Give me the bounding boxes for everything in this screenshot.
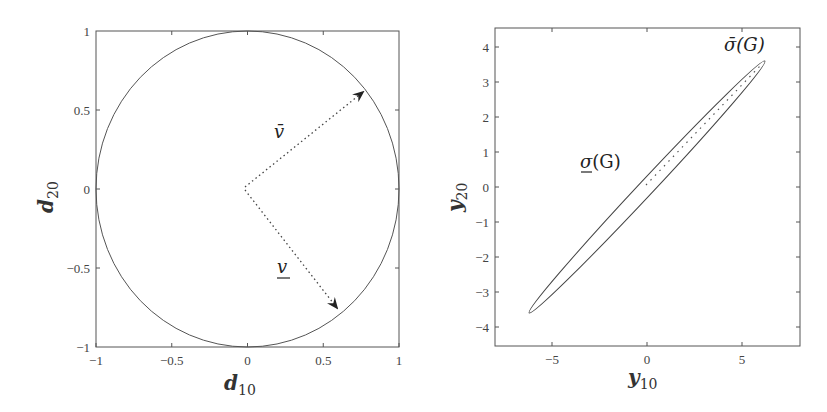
right-x-axis-label: y10 (627, 365, 657, 392)
right-ytick-label: −1 (475, 215, 489, 230)
right-ytick-label: −4 (475, 320, 489, 335)
right-ytick-label: 0 (483, 180, 490, 195)
vunder-label: v (277, 256, 287, 277)
left-plot-frame (96, 31, 399, 347)
sigma-max-label: σ̄(G) (724, 34, 765, 55)
left-ytick-label: −0.5 (66, 261, 90, 276)
right-plot: −5 0 5 4 3 2 1 0 −1 −2 −3 −4 y10 y20 σ̄(… (443, 28, 800, 392)
right-xtick-label: 5 (739, 352, 746, 367)
left-x-ticks (96, 31, 399, 347)
right-ytick-label: −3 (475, 285, 489, 300)
vbar-arrow (245, 92, 363, 187)
right-ytick-label: 1 (483, 145, 490, 160)
max-gain-direction (646, 66, 760, 185)
right-ytick-label: 4 (483, 40, 490, 55)
right-ytick-label: −2 (475, 250, 489, 265)
right-y-axis-label: y20 (443, 183, 470, 213)
left-y-ticks (96, 110, 399, 268)
left-xtick-label: 0 (244, 353, 251, 368)
figure: −1 −0.5 0 0.5 1 1 0.5 0 −0.5 −1 d10 d20 … (0, 0, 827, 412)
right-ytick-label: 3 (483, 75, 490, 90)
left-xtick-label: −0.5 (160, 353, 184, 368)
left-ytick-label: 0 (84, 182, 91, 197)
right-xtick-label: 0 (644, 352, 651, 367)
output-ellipse-group (524, 56, 771, 318)
left-ytick-label: 0.5 (74, 103, 90, 118)
sigma-min-label: σ(G) (580, 151, 621, 172)
unit-circle (96, 31, 399, 347)
left-ytick-label: −1 (76, 340, 90, 355)
left-plot: −1 −0.5 0 0.5 1 1 0.5 0 −0.5 −1 d10 d20 … (34, 24, 402, 398)
left-xtick-label: −1 (89, 353, 103, 368)
vbar-label: v̄ (274, 121, 284, 142)
right-ytick-label: 2 (483, 110, 490, 125)
left-xtick-label: 0.5 (315, 353, 331, 368)
right-xtick-label: −5 (545, 352, 559, 367)
right-x-ticks (552, 28, 742, 346)
output-ellipse (524, 56, 771, 318)
left-y-axis-label: d20 (34, 181, 61, 213)
left-xtick-label: 1 (396, 353, 403, 368)
right-plot-frame (495, 28, 800, 346)
left-ytick-label: 1 (84, 24, 91, 39)
vunder-arrow (245, 190, 337, 308)
left-x-axis-label: d10 (224, 371, 256, 398)
right-y-ticks (495, 47, 800, 327)
